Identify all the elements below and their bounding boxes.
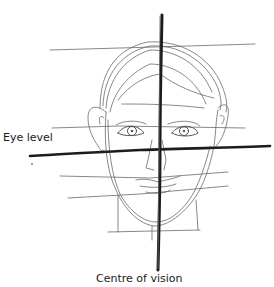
eye-level-label: Eye level	[3, 131, 53, 144]
centre-of-vision-label: Centre of vision	[96, 272, 182, 285]
face-diagram: Eye level Centre of vision	[0, 0, 274, 287]
eyes	[116, 121, 200, 136]
hair-outline	[100, 42, 227, 112]
horizontal-guide-lines	[50, 44, 255, 232]
dot-mark	[31, 163, 33, 165]
